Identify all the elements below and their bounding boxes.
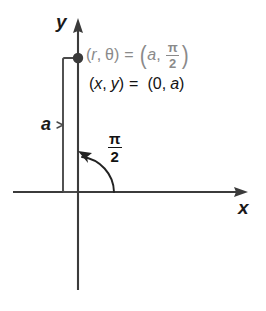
rect-lhs-comma: , [102,76,106,92]
rect-a-value: a [170,76,179,92]
polar-a-value: a [147,47,156,63]
polar-lhs-comma: , [97,47,101,63]
measure-bracket [63,58,76,192]
y-axis-label: y [56,12,67,31]
angle-arc-arrowhead [78,151,92,163]
rect-y-symbol: y [111,76,119,92]
angle-numerator: π [107,131,122,147]
polar-rhs-open-paren: ( [140,44,147,66]
polar-equation: ( r , θ ) = ( a , π 2 ) [86,40,189,70]
equations-block: ( r , θ ) = ( a , π 2 ) ( x , y ) = [86,40,189,97]
polar-theta-fraction: π 2 [166,41,180,70]
polar-rhs-comma: , [156,47,160,63]
rect-lhs-close-paren: ) [119,76,124,92]
rect-zero-value: 0 [153,76,162,92]
polar-equals-sign: = [124,47,133,63]
polar-theta-numerator: π [166,41,180,55]
angle-denominator: 2 [108,147,122,164]
y-axis-arrowhead [73,18,83,33]
rect-equals-sign: = [129,76,138,92]
rect-x-symbol: x [94,76,102,92]
polar-rhs-close-paren: ) [182,44,189,66]
angle-fraction: π 2 [107,131,122,164]
plotted-point [73,53,83,63]
distance-label-a: a [41,115,51,133]
rect-rhs-close-paren: ) [179,76,184,92]
polar-coordinate-diagram: y x a π 2 ( r , θ ) = ( a , π 2 ) [0,0,266,311]
x-axis-arrowhead [234,187,248,197]
rect-rhs-comma: , [162,76,166,92]
angle-label: π 2 [106,131,123,164]
rectangular-equation: ( x , y ) = ( 0 , a ) [89,71,189,97]
x-axis-label: x [238,198,249,217]
polar-theta-denominator: 2 [166,55,179,70]
polar-lhs-close-paren: ) [114,47,119,63]
polar-theta-symbol: θ [105,47,114,63]
